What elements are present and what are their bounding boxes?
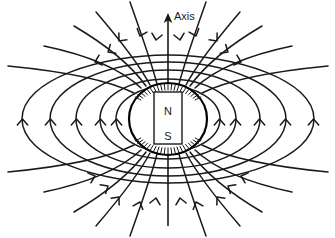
axis-label: Axis — [174, 10, 195, 22]
arrowhead-icon — [175, 197, 186, 205]
arrowhead-icon — [151, 33, 162, 41]
north-pole-label: N — [164, 105, 172, 117]
south-pole-label: S — [164, 130, 171, 142]
arrowhead-icon — [133, 200, 145, 209]
field-diagram-svg: N S Axis — [0, 0, 335, 238]
magnetic-field-figure: N S Axis — [0, 0, 335, 238]
arrowhead-icon — [225, 182, 236, 194]
arrowhead-icon — [150, 197, 161, 205]
arrowhead-icon — [100, 182, 111, 194]
arrowhead-icon — [174, 33, 185, 41]
arrowhead-icon — [191, 200, 203, 209]
